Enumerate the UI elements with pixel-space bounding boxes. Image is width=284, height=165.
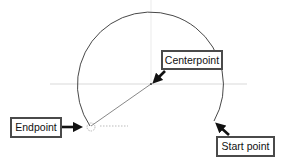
start-point-label: Start point xyxy=(216,136,275,157)
radius-line xyxy=(91,84,151,126)
centerpoint-marker xyxy=(150,83,152,85)
endpoint-marker xyxy=(87,123,95,131)
endpoint-label: Endpoint xyxy=(10,117,62,138)
start-point-arrow xyxy=(219,126,229,135)
centerpoint-arrow xyxy=(156,71,165,80)
centerpoint-label: Centerpoint xyxy=(161,50,223,70)
